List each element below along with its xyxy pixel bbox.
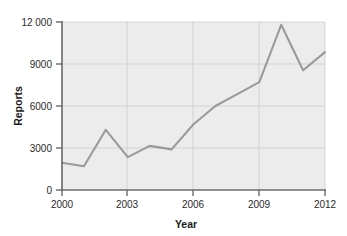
x-tick-labels: 2000 2003 2006 2009 2012	[51, 199, 337, 210]
y-tick-labels: 12 000 9000 6000 3000 0	[21, 17, 52, 196]
x-tick-label-2003: 2003	[116, 199, 139, 210]
x-tick-label-2006: 2006	[182, 199, 205, 210]
y-axis-title: Reports	[12, 86, 24, 126]
y-tick-label-9000: 9000	[30, 59, 53, 70]
chart-canvas: 12 000 9000 6000 3000 0 2000 2003 2006 2…	[0, 0, 347, 236]
x-tick-label-2000: 2000	[51, 199, 74, 210]
x-axis	[61, 190, 326, 196]
y-tick-label-6000: 6000	[30, 101, 53, 112]
x-axis-title: Year	[175, 218, 197, 230]
y-tick-label-12000: 12 000	[21, 17, 52, 28]
y-axis	[56, 21, 62, 191]
x-tick-label-2009: 2009	[248, 199, 271, 210]
line-chart: 12 000 9000 6000 3000 0 2000 2003 2006 2…	[0, 0, 347, 236]
y-tick-label-0: 0	[46, 185, 52, 196]
y-tick-label-3000: 3000	[30, 143, 53, 154]
x-tick-label-2012: 2012	[314, 199, 337, 210]
